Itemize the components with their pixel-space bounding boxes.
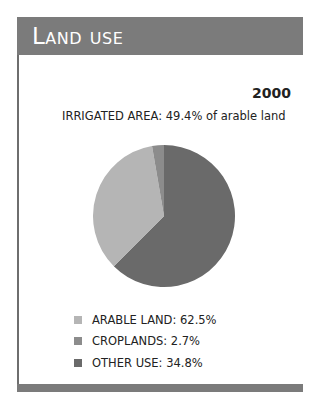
- legend-item-arable: ARABLE LAND: 62.5%: [74, 309, 217, 331]
- swatch-icon: [74, 359, 82, 367]
- legend-label: OTHER USE: 34.8%: [92, 356, 203, 370]
- irrigated-area-label: IRRIGATED AREA: 49.4% of arable land: [62, 109, 286, 123]
- year-label: 2000: [252, 85, 291, 101]
- footer-bar: [17, 384, 303, 392]
- page-title: Land use: [32, 23, 123, 49]
- header-bar: Land use: [17, 17, 303, 55]
- chart-legend: ARABLE LAND: 62.5% CROPLANDS: 2.7% OTHER…: [74, 309, 217, 374]
- land-use-panel: Land use 2000 IRRIGATED AREA: 49.4% of a…: [17, 17, 303, 392]
- legend-item-other-use: OTHER USE: 34.8%: [74, 352, 217, 374]
- swatch-icon: [74, 337, 82, 345]
- legend-item-croplands: CROPLANDS: 2.7%: [74, 331, 217, 353]
- legend-label: ARABLE LAND: 62.5%: [92, 313, 217, 327]
- swatch-icon: [74, 316, 82, 324]
- left-border: [17, 55, 19, 385]
- legend-label: CROPLANDS: 2.7%: [92, 334, 200, 348]
- land-use-pie-chart: [92, 144, 236, 288]
